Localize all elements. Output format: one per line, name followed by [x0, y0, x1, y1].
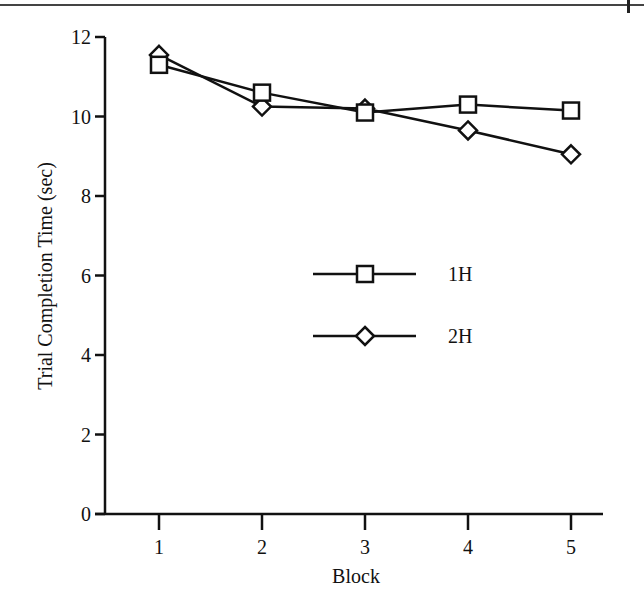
series-group — [150, 46, 580, 163]
y-tick-label: 0 — [81, 503, 91, 525]
x-tick-label: 1 — [154, 536, 164, 558]
x-axis-title: Block — [332, 565, 380, 587]
diamond-marker — [562, 145, 580, 163]
legend-square-icon — [357, 266, 373, 282]
diamond-marker — [459, 121, 477, 139]
square-marker — [357, 105, 373, 121]
legend-label: 2H — [448, 325, 472, 347]
y-tick-label: 4 — [81, 344, 91, 366]
square-marker — [563, 103, 579, 119]
y-tick-label: 6 — [81, 265, 91, 287]
legend-diamond-icon — [356, 327, 374, 345]
y-tick-label: 2 — [81, 424, 91, 446]
line-chart: 02468101212345 1H2H Block Trial Completi… — [0, 0, 644, 612]
square-marker — [151, 57, 167, 73]
markers-1H — [151, 57, 579, 121]
legend-label: 1H — [448, 263, 472, 285]
x-tick-label: 2 — [257, 536, 267, 558]
legend-item-2H: 2H — [313, 325, 472, 347]
legend: 1H2H — [313, 263, 472, 347]
legend-item-1H: 1H — [313, 263, 472, 285]
y-tick-label: 12 — [71, 26, 91, 48]
square-marker — [254, 85, 270, 101]
y-axis-title: Trial Completion Time (sec) — [34, 162, 57, 390]
y-tick-label: 10 — [71, 106, 91, 128]
square-marker — [460, 97, 476, 113]
x-tick-label: 3 — [360, 536, 370, 558]
y-tick-label: 8 — [81, 185, 91, 207]
x-tick-label: 5 — [566, 536, 576, 558]
x-tick-label: 4 — [463, 536, 473, 558]
axes: 02468101212345 — [71, 26, 603, 558]
